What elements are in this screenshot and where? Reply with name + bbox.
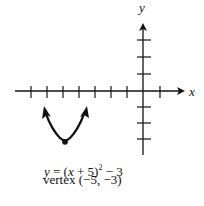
- x-ticks: [31, 86, 160, 98]
- right-arrowhead-icon: [80, 106, 89, 118]
- y-ticks: [137, 40, 151, 139]
- y-axis-label: y: [139, 1, 145, 14]
- parabola-curve: [46, 114, 84, 141]
- vertex-point: [62, 139, 68, 145]
- vertex-caption: vertex (−5, −3): [43, 173, 122, 186]
- x-axis-label: x: [189, 85, 195, 98]
